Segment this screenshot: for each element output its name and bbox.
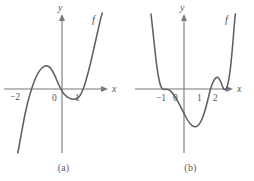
tick-label-b-1: 1 xyxy=(197,93,202,103)
plot-a: −2 0 1 x y f xyxy=(0,0,127,160)
tick-label-b-neg1: −1 xyxy=(156,93,166,103)
y-axis-label-b: y xyxy=(179,2,185,13)
origin-label-a: 0 xyxy=(52,93,57,103)
tick-label-a-neg2: −2 xyxy=(10,92,20,102)
y-axis-a xyxy=(59,14,65,153)
curve-a xyxy=(18,13,102,153)
figure-container: −2 0 1 x y f (a) xyxy=(0,0,254,181)
origin-label-b: 0 xyxy=(173,93,178,103)
panel-b: −1 0 1 2 x y f (b) xyxy=(127,0,254,181)
tick-label-b-2: 2 xyxy=(213,93,218,103)
tick-label-a-1: 1 xyxy=(75,93,80,103)
curve-b xyxy=(151,14,235,127)
y-axis-b xyxy=(181,14,187,153)
panel-a: −2 0 1 x y f (a) xyxy=(0,0,127,181)
caption-b: (b) xyxy=(127,162,254,173)
x-axis-label-a: x xyxy=(111,83,117,94)
y-axis-label-a: y xyxy=(57,2,63,13)
function-label-b: f xyxy=(225,14,230,25)
x-axis-label-b: x xyxy=(236,83,242,94)
function-label-a: f xyxy=(92,14,97,25)
caption-a: (a) xyxy=(0,162,127,173)
plot-b: −1 0 1 2 x y f xyxy=(127,0,254,160)
